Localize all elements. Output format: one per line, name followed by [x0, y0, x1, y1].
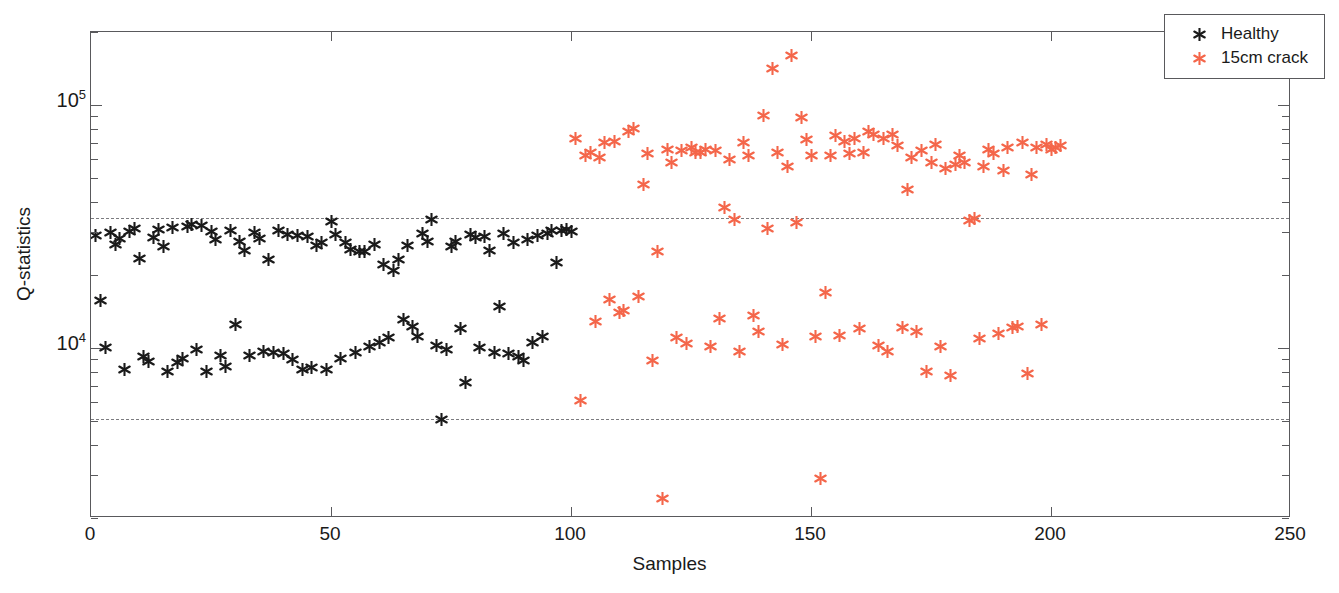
data-point — [416, 227, 429, 240]
x-axis-tick-label: 150 — [794, 523, 826, 545]
legend-label: Healthy — [1221, 24, 1279, 44]
data-point — [646, 354, 659, 367]
data-point — [781, 160, 794, 173]
data-point — [973, 332, 986, 345]
data-point — [670, 331, 683, 344]
data-point — [867, 128, 880, 141]
legend-entry[interactable]: 15cm crack — [1177, 46, 1308, 70]
plot-area — [90, 31, 1290, 517]
data-point — [349, 346, 362, 359]
y-axis-minor-tick — [91, 178, 98, 179]
data-point — [997, 164, 1010, 177]
data-point — [464, 228, 477, 241]
data-point — [473, 341, 486, 354]
y-axis-minor-tick — [91, 129, 98, 130]
data-point — [771, 146, 784, 159]
data-point — [531, 229, 544, 242]
data-point — [718, 201, 731, 214]
data-point — [905, 151, 918, 164]
data-point — [440, 343, 453, 356]
data-point — [521, 233, 534, 246]
data-point — [982, 143, 995, 156]
x-axis-tick — [1051, 507, 1052, 516]
data-point — [925, 156, 938, 169]
data-point — [920, 365, 933, 378]
data-point — [301, 230, 314, 243]
data-point — [848, 132, 861, 145]
y-axis-minor-tick — [91, 143, 98, 144]
data-point — [795, 111, 808, 124]
data-point — [661, 143, 674, 156]
data-point — [877, 132, 890, 145]
y-axis-minor-tick — [91, 402, 98, 403]
y-axis-tick-label: 105 — [57, 90, 86, 110]
data-point — [709, 144, 722, 157]
y-axis-major-tick-right — [1278, 348, 1289, 349]
data-point — [286, 353, 299, 366]
data-point — [838, 135, 851, 148]
data-point — [320, 363, 333, 376]
data-point — [829, 129, 842, 142]
x-axis-tick-top — [331, 32, 332, 41]
y-tick-exponent: 5 — [79, 88, 86, 103]
data-point — [157, 240, 170, 253]
data-point — [862, 125, 875, 138]
data-point — [579, 149, 592, 162]
data-point — [310, 239, 323, 252]
data-point — [229, 318, 242, 331]
data-point — [896, 321, 909, 334]
y-axis-major-tick — [91, 105, 102, 106]
data-point — [814, 472, 827, 485]
y-tick-exponent: 4 — [79, 331, 86, 346]
data-point — [142, 355, 155, 368]
data-point — [1030, 141, 1043, 154]
data-point — [1011, 320, 1024, 333]
y-axis-minor-tick-right — [1282, 275, 1289, 276]
data-point — [1001, 141, 1014, 154]
data-point — [953, 149, 966, 162]
legend-entry[interactable]: Healthy — [1177, 22, 1308, 46]
y-axis-minor-tick — [91, 159, 98, 160]
data-point — [113, 232, 126, 245]
data-point — [593, 151, 606, 164]
lower-control-limit — [91, 419, 1289, 420]
data-point — [171, 356, 184, 369]
data-point — [238, 244, 251, 257]
data-point — [339, 236, 352, 249]
data-point — [267, 346, 280, 359]
data-point — [478, 230, 491, 243]
data-point — [632, 290, 645, 303]
data-point — [891, 139, 904, 152]
data-point — [977, 160, 990, 173]
data-point — [205, 225, 218, 238]
data-point — [1025, 168, 1038, 181]
data-point — [776, 338, 789, 351]
data-point — [699, 143, 712, 156]
data-point — [987, 147, 1000, 160]
x-axis-tick — [331, 507, 332, 516]
data-point — [507, 236, 520, 249]
y-axis-minor-tick — [91, 116, 98, 117]
data-point — [454, 322, 467, 335]
data-point — [809, 330, 822, 343]
y-axis-minor-tick-right — [1282, 232, 1289, 233]
data-point — [934, 340, 947, 353]
data-point — [723, 153, 736, 166]
figure-container: 104105050100150200250 Samples Q-statisti… — [0, 0, 1339, 593]
y-axis-minor-tick-right — [1282, 202, 1289, 203]
data-point — [675, 144, 688, 157]
data-point — [689, 146, 702, 159]
data-point — [209, 233, 222, 246]
data-point — [766, 62, 779, 75]
data-point — [747, 309, 760, 322]
data-point — [387, 264, 400, 277]
data-point — [1045, 143, 1058, 156]
data-point — [296, 363, 309, 376]
plot-canvas — [91, 32, 1289, 516]
data-point — [315, 236, 328, 249]
data-point — [569, 132, 582, 145]
data-point — [190, 343, 203, 356]
data-point — [392, 253, 405, 266]
data-point — [373, 336, 386, 349]
data-point — [939, 162, 952, 175]
